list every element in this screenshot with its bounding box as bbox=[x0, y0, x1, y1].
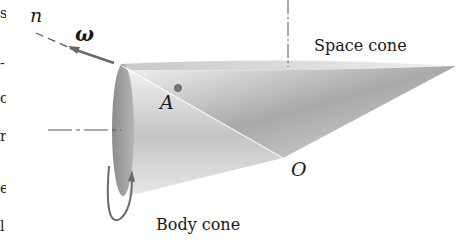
clipped-text-fragment: l bbox=[0, 218, 6, 234]
label-A: A bbox=[160, 93, 174, 112]
label-body-cone: Body cone bbox=[156, 217, 240, 233]
label-O: O bbox=[291, 160, 307, 179]
clipped-text-fragment: s bbox=[0, 5, 6, 21]
label-space-cone: Space cone bbox=[314, 38, 407, 54]
omega-arrowhead-icon bbox=[68, 46, 80, 54]
clipped-text-fragment: e bbox=[0, 180, 6, 196]
n-axis-dashed bbox=[36, 33, 68, 47]
point-A-marker bbox=[175, 85, 182, 92]
label-n: n bbox=[30, 6, 42, 25]
clipped-text-fragment: o bbox=[0, 90, 6, 106]
clipped-text-fragment: r bbox=[0, 128, 6, 144]
label-omega: ω bbox=[75, 24, 94, 44]
clipped-text-fragment: - bbox=[0, 55, 6, 71]
